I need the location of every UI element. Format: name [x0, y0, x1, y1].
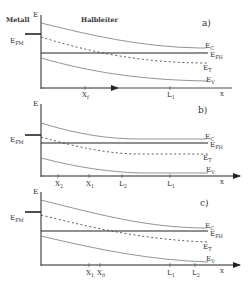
- semiconductor-label: Halbleiter: [81, 16, 119, 24]
- panel-b: E EFM X2 X1 L2 L1 b) EC EFH ET EV x: [10, 100, 240, 189]
- panel-c: E EFM X1 X0 L1 L2 c) EC EFH ET EV x: [10, 188, 240, 278]
- tick-label: X1: [86, 180, 94, 189]
- energy-axis-label: E: [33, 100, 38, 108]
- tick-label: L2: [119, 180, 127, 189]
- band-diagram-figure: Metall Halbleiter E EFM Xf L1 a) EC EFH …: [0, 0, 249, 286]
- valence-band: [41, 58, 208, 81]
- ev-label: EV: [206, 255, 215, 264]
- et-label: ET: [203, 243, 212, 252]
- valence-band: [41, 236, 208, 262]
- tick-label: L1: [167, 91, 175, 100]
- efm-label: EFM: [10, 136, 24, 145]
- tick-label: L2: [192, 269, 200, 278]
- panel-label: a): [202, 18, 211, 28]
- x-axis-label: x: [220, 90, 224, 98]
- efh-label: EFH: [210, 230, 224, 239]
- efm-label: EFM: [10, 214, 24, 223]
- efh-label: EFH: [210, 51, 224, 60]
- ev-label: EV: [206, 76, 215, 85]
- conduction-band: [41, 200, 206, 228]
- tick-label: Xf: [82, 91, 90, 100]
- efm-label: EFM: [10, 37, 24, 46]
- energy-axis-label: E: [33, 188, 38, 196]
- valence-band: [41, 158, 208, 173]
- ec-label: EC: [205, 42, 214, 51]
- trap-level: [41, 215, 208, 242]
- conduction-band: [41, 23, 206, 48]
- tick-label: L1: [167, 180, 175, 189]
- ev-label: EV: [206, 166, 215, 175]
- tick-label: X1: [86, 269, 94, 278]
- panel-a: E EFM Xf L1 a) EC EFH ET EV x: [10, 11, 232, 100]
- x-axis-label: x: [220, 178, 224, 186]
- panel-label: c): [200, 198, 209, 208]
- tick-label: L1: [167, 269, 175, 278]
- x-axis-label: x: [220, 267, 224, 275]
- efh-label: EFH: [210, 141, 224, 150]
- panel-label: b): [198, 105, 207, 115]
- et-label: ET: [203, 154, 212, 163]
- conduction-band: [41, 123, 206, 139]
- tick-label: X2: [55, 180, 63, 189]
- metal-label: Metall: [6, 16, 30, 24]
- tick-label: X0: [97, 269, 105, 278]
- trap-level: [41, 137, 208, 154]
- energy-axis-label: E: [33, 11, 38, 19]
- et-label: ET: [203, 64, 212, 73]
